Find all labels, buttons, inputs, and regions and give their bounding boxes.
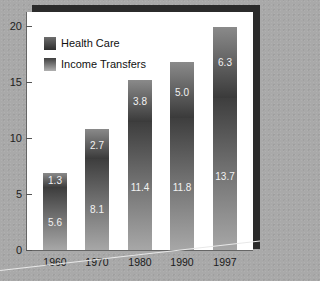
bar-label-income-transfers: 11.4	[128, 182, 152, 193]
bar-label-income-transfers: 5.6	[43, 217, 67, 228]
bar-label-health-care: 3.8	[128, 96, 152, 107]
bar-label-health-care: 6.3	[213, 57, 237, 68]
y-tick-mark	[26, 194, 32, 195]
y-tick-mark	[26, 26, 32, 27]
bar-1990: 5.0 11.8	[170, 62, 194, 250]
legend-swatch-income-transfers	[44, 58, 56, 71]
bar-1960: 1.3 5.6	[43, 173, 67, 250]
bar-label-health-care: 1.3	[43, 175, 67, 186]
bar-label-income-transfers: 13.7	[213, 171, 237, 182]
y-tick-label: 20	[0, 20, 22, 32]
x-tick-label: 1980	[120, 256, 160, 268]
y-tick-label: 15	[0, 76, 22, 88]
bar-1970: 2.7 8.1	[85, 129, 109, 250]
y-tick-label: 5	[0, 188, 22, 200]
x-tick-label: 1990	[162, 256, 202, 268]
x-tick-label: 1997	[205, 256, 245, 268]
bar-1980: 3.8 11.4	[128, 80, 152, 250]
bar-label-income-transfers: 11.8	[170, 182, 194, 193]
bar-label-health-care: 5.0	[170, 87, 194, 98]
bar-label-income-transfers: 8.1	[85, 204, 109, 215]
legend-label: Health Care	[61, 37, 120, 50]
y-tick-label: 10	[0, 132, 22, 144]
y-tick-mark	[26, 250, 32, 251]
y-tick-label: 0	[0, 244, 22, 256]
legend-swatch-health-care	[44, 37, 56, 50]
legend-label: Income Transfers	[61, 58, 146, 71]
bar-label-health-care: 2.7	[85, 140, 109, 151]
y-tick-mark	[26, 82, 32, 83]
y-tick-mark	[26, 138, 32, 139]
bar-1997: 6.3 13.7	[213, 27, 237, 250]
